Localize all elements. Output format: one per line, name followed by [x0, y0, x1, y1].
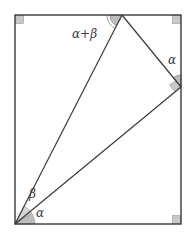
label-beta-bottom: β [28, 187, 36, 201]
diagram-canvas: α+β α β α [0, 0, 194, 237]
right-angle-marker-top-right [173, 16, 181, 24]
label-alpha-plus-beta: α+β [72, 27, 97, 41]
right-angle-marker-bottom-right [173, 216, 181, 224]
segment-o-q [15, 87, 181, 224]
outer-rectangle [15, 15, 181, 224]
label-alpha-right: α [168, 53, 176, 67]
angle-arc-alpha-plus-beta [110, 15, 122, 26]
segment-p-q [122, 15, 181, 87]
right-angle-marker-top-left [16, 16, 24, 24]
label-alpha-bottom: α [36, 206, 44, 220]
